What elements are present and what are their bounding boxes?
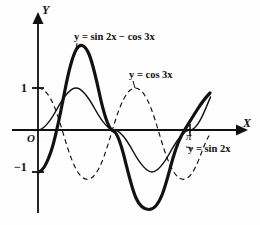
- x-axis-label: X: [243, 117, 251, 129]
- origin-label: O: [27, 133, 35, 144]
- curve-sin2x-minus-cos3x: [38, 45, 210, 209]
- x-tick-label-pi: π: [186, 131, 192, 142]
- y-tick-label-one: 1: [21, 82, 27, 94]
- curve-label-sin2x-minus-cos3x: y = sin 2x − cos 3x: [74, 32, 155, 43]
- x-axis: [12, 125, 248, 136]
- y-axis: [33, 12, 44, 213]
- curve-label-sin2x: y = sin 2x: [188, 144, 230, 155]
- y-axis-label: Y: [42, 4, 49, 16]
- curve-label-cos3x: y = cos 3x: [129, 70, 173, 81]
- leader-line-cos: [133, 81, 135, 88]
- y-tick-label-negative-one: −1: [14, 161, 27, 173]
- function-graph-figure: Y X 1 −1 O π y = sin 2x − cos 3x y = cos…: [0, 0, 260, 225]
